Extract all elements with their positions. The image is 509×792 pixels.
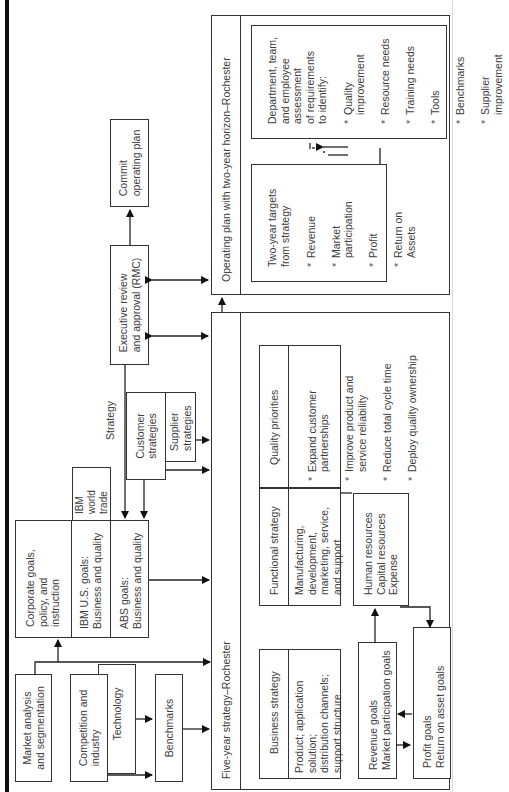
connector-arrows xyxy=(0,0,455,792)
strategy-diagram: Market analysis and segmentation Technol… xyxy=(0,0,455,792)
